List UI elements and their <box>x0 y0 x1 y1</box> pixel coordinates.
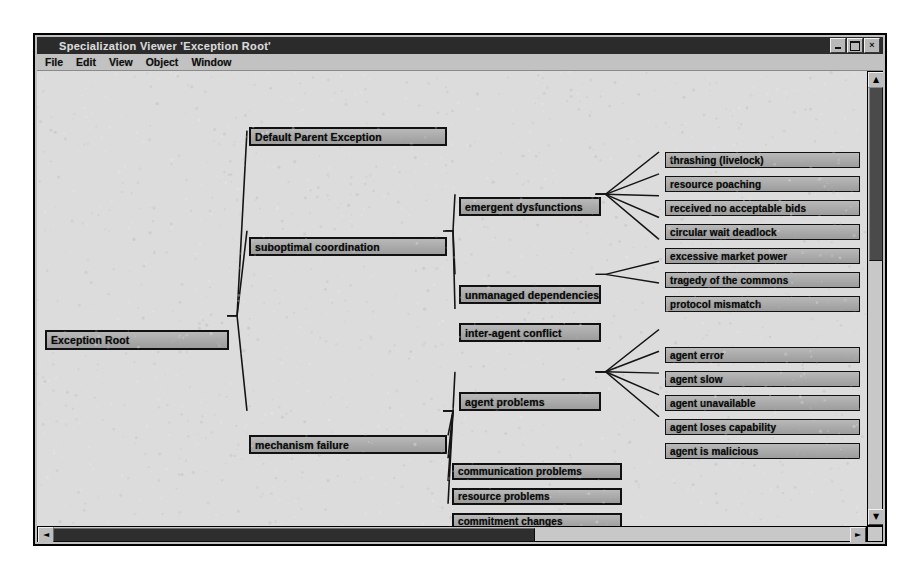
close-icon: × <box>865 39 879 52</box>
tree-edge <box>443 194 455 230</box>
tree-node[interactable]: agent unavailable <box>665 395 860 411</box>
tree-edge <box>596 274 659 283</box>
tree-node-label: resource poaching <box>666 179 761 190</box>
tree-node[interactable]: received no acceptable bids <box>665 200 860 216</box>
tree-edge <box>596 372 659 395</box>
scroll-left-button[interactable]: ◄ <box>38 527 54 542</box>
horizontal-scroll-thumb[interactable] <box>53 528 535 542</box>
tree-node-label: Default Parent Exception <box>251 131 382 143</box>
tree-node-label: inter-agent conflict <box>461 327 562 339</box>
tree-node-label: received no acceptable bids <box>666 203 806 214</box>
tree-node[interactable]: agent loses capability <box>665 419 860 435</box>
tree-node[interactable]: agent problems <box>459 392 601 411</box>
menu-item-edit[interactable]: Edit <box>76 56 96 68</box>
scrollbar-corner <box>867 526 883 542</box>
tree-node[interactable]: mechanism failure <box>249 435 447 454</box>
tree-node-label: excessive market power <box>666 251 787 262</box>
tree-node[interactable]: circular wait deadlock <box>665 224 860 240</box>
tree-node[interactable]: agent slow <box>665 371 860 387</box>
tree-node-label: communication problems <box>454 466 582 477</box>
window-controls: × <box>830 38 880 53</box>
tree-node-label: protocol mismatch <box>666 299 761 310</box>
vertical-scroll-thumb[interactable] <box>869 87 883 261</box>
tree-node-label: agent loses capability <box>666 422 776 433</box>
specialization-viewer-window: Specialization Viewer 'Exception Root' ×… <box>33 33 887 546</box>
left-arrow-icon: ◄ <box>43 531 49 539</box>
tree-node-label: thrashing (livelock) <box>666 155 764 166</box>
tree-node[interactable]: suboptimal coordination <box>249 237 447 256</box>
tree-node-label: agent unavailable <box>666 398 756 409</box>
tree-node-label: agent problems <box>461 396 545 408</box>
tree-edge <box>596 351 659 371</box>
tree-node[interactable]: unmanaged dependencies <box>459 285 601 304</box>
tree-edge <box>596 152 659 194</box>
menu-item-view[interactable]: View <box>109 56 133 68</box>
tree-edge <box>596 372 659 373</box>
tree-node[interactable]: resource poaching <box>665 176 860 192</box>
up-arrow-icon: ▲ <box>873 76 879 84</box>
tree-node-label: resource problems <box>454 491 550 502</box>
tree-edge <box>227 316 247 411</box>
tree-edge <box>443 372 455 411</box>
tree-edge <box>596 261 659 274</box>
menu-item-object[interactable]: Object <box>146 56 179 68</box>
tree-node[interactable]: commitment changes <box>452 513 622 526</box>
window-title: Specialization Viewer 'Exception Root' <box>59 40 271 52</box>
tree-node-label: unmanaged dependencies <box>461 289 599 301</box>
horizontal-scrollbar[interactable]: ◄ ► <box>37 526 867 542</box>
tree-node[interactable]: agent error <box>665 347 860 363</box>
scroll-down-button[interactable]: ▼ <box>868 509 883 525</box>
tree-node-label: agent error <box>666 350 724 361</box>
tree-node-label: suboptimal coordination <box>251 241 380 253</box>
tree-edge <box>227 231 247 316</box>
tree-node[interactable]: Exception Root <box>45 330 229 350</box>
tree-edge <box>596 372 659 417</box>
tree-edge <box>443 411 453 436</box>
tree-node-label: commitment changes <box>454 516 563 526</box>
tree-node[interactable]: inter-agent conflict <box>459 323 601 342</box>
tree-edge <box>227 131 247 316</box>
tree-edge <box>596 194 659 217</box>
tree-node[interactable]: tragedy of the commons <box>665 272 860 288</box>
tree-node[interactable]: communication problems <box>452 463 622 480</box>
viewer-pane: Exception RootDefault Parent Exceptionsu… <box>37 71 883 542</box>
tree-node[interactable]: Default Parent Exception <box>249 127 447 146</box>
tree-edge <box>596 194 659 239</box>
tree-edge <box>596 194 659 195</box>
tree-node[interactable]: resource problems <box>452 488 622 505</box>
tree-node[interactable]: excessive market power <box>665 248 860 264</box>
tree-edge <box>596 174 659 194</box>
right-arrow-icon: ► <box>855 531 861 539</box>
vertical-scrollbar[interactable]: ▲ ▼ <box>867 71 883 526</box>
tree-node[interactable]: protocol mismatch <box>665 296 860 312</box>
tree-node[interactable]: agent is malicious <box>665 443 860 459</box>
title-bar[interactable]: Specialization Viewer 'Exception Root' × <box>37 37 883 54</box>
tree-node-label: emergent dysfunctions <box>461 201 583 213</box>
close-button[interactable]: × <box>864 38 880 53</box>
tree-node[interactable]: emergent dysfunctions <box>459 197 601 216</box>
scroll-up-button[interactable]: ▲ <box>868 72 883 88</box>
tree-node-label: agent is malicious <box>666 446 759 457</box>
menu-item-file[interactable]: File <box>45 56 63 68</box>
tree-node-label: mechanism failure <box>251 439 349 451</box>
minimize-button[interactable] <box>830 38 846 53</box>
tree-canvas[interactable]: Exception RootDefault Parent Exceptionsu… <box>37 71 867 526</box>
menu-bar: File Edit View Object Window <box>37 54 883 71</box>
maximize-button[interactable] <box>847 38 863 53</box>
tree-node-label: agent slow <box>666 374 723 385</box>
scroll-right-button[interactable]: ► <box>850 527 866 542</box>
tree-edge <box>596 329 659 371</box>
tree-node-label: Exception Root <box>47 334 129 346</box>
tree-node[interactable]: thrashing (livelock) <box>665 152 860 168</box>
menu-item-window[interactable]: Window <box>191 56 231 68</box>
tree-node-label: circular wait deadlock <box>666 227 777 238</box>
down-arrow-icon: ▼ <box>873 513 879 521</box>
tree-node-label: tragedy of the commons <box>666 275 788 286</box>
